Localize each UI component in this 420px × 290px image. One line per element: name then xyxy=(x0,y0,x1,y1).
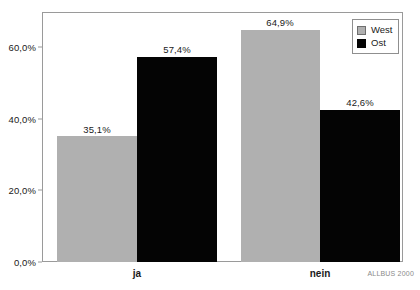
legend-label-west: West xyxy=(371,25,392,35)
bar-ost-ja[interactable] xyxy=(137,57,217,263)
bar-value-label-west-ja: 35,1% xyxy=(83,124,110,135)
legend-item-west[interactable]: West xyxy=(357,24,392,36)
legend-label-ost: Ost xyxy=(371,38,386,48)
bar-west-ja[interactable] xyxy=(57,136,137,262)
bar-chart: 0,0% 20,0% 40,0% 60,0% 35,1% 57,4% 64,9%… xyxy=(0,0,420,290)
bar-value-label-ost-nein: 42,6% xyxy=(346,97,373,108)
legend-swatch-ost-icon xyxy=(357,39,366,48)
bar-west-nein[interactable] xyxy=(241,30,320,262)
bar-ost-nein[interactable] xyxy=(320,110,400,263)
source-annotation: ALLBUS 2000 xyxy=(367,270,414,277)
x-axis-label-ja: ja xyxy=(133,268,141,279)
legend-item-ost[interactable]: Ost xyxy=(357,37,392,49)
bar-value-label-ost-ja: 57,4% xyxy=(163,44,190,55)
bar-value-label-west-nein: 64,9% xyxy=(266,17,293,28)
legend: West Ost xyxy=(352,19,399,54)
legend-swatch-west-icon xyxy=(357,26,366,35)
x-axis-label-nein: nein xyxy=(310,268,331,279)
